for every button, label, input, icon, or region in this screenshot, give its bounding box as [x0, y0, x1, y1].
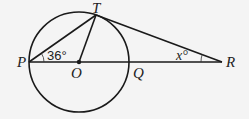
- center-point-O: [77, 60, 81, 64]
- angle-label-x: x°: [175, 48, 188, 63]
- angle-arc-R: [201, 54, 202, 62]
- radius-OT: [79, 15, 96, 62]
- geometry-diagram: P O Q R T 36° x°: [0, 0, 249, 119]
- label-R: R: [225, 54, 235, 70]
- label-O: O: [71, 65, 82, 81]
- tangent-TR: [96, 15, 222, 62]
- angle-arc-P: [42, 54, 45, 63]
- label-P: P: [16, 54, 26, 70]
- angle-label-36: 36°: [47, 48, 67, 63]
- label-Q: Q: [133, 65, 144, 81]
- label-T: T: [92, 0, 102, 16]
